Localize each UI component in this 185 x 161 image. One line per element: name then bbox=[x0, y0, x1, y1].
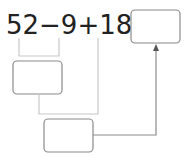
bracket-52-minus-9 bbox=[19, 38, 59, 56]
arrow-head-icon bbox=[153, 44, 159, 51]
answer-box[interactable] bbox=[131, 10, 180, 43]
step1-box[interactable] bbox=[13, 61, 62, 94]
arrow-line bbox=[93, 50, 156, 135]
math-diagram: 52−9+18= bbox=[0, 0, 185, 161]
step2-box[interactable] bbox=[44, 119, 93, 152]
diagram-canvas: 52−9+18= bbox=[0, 0, 185, 161]
